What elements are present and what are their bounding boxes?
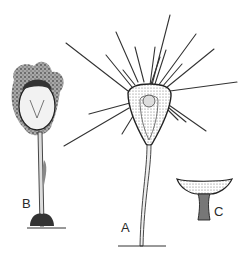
panel-c: C (177, 179, 232, 220)
panel-a: A (64, 15, 237, 246)
label-a: A (121, 220, 130, 235)
illustration: A B C (0, 0, 239, 257)
label-c: C (214, 204, 223, 219)
stalk-a (140, 145, 151, 246)
nucleus (143, 95, 155, 107)
body-b (19, 82, 55, 130)
label-b: B (22, 196, 31, 211)
body-a (128, 84, 171, 146)
cup-c (177, 179, 232, 194)
panel-b: B (12, 62, 66, 228)
base-debris-b (30, 214, 54, 226)
stem-c (198, 194, 210, 220)
